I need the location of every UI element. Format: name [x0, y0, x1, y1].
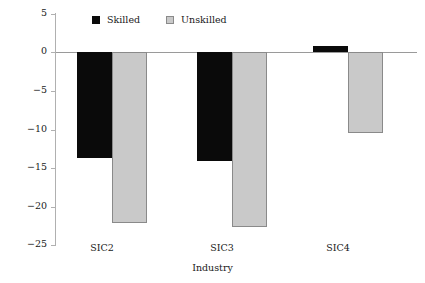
bar-sic2-skilled — [77, 52, 112, 158]
legend-item-unskilled: Unskilled — [166, 14, 227, 25]
bar-chart: Percentage 5 0 −5 −10 −15 −20 −25 SI — [0, 0, 425, 283]
gray-square-swatch-icon — [166, 16, 174, 24]
y-tick-label-0: 0 — [41, 45, 47, 56]
legend-label-skilled: Skilled — [107, 14, 140, 25]
black-square-swatch-icon — [92, 16, 100, 24]
y-tick-label-minus25: −25 — [27, 238, 47, 249]
legend-item-skilled: Skilled — [92, 14, 140, 25]
bar-sic2-unskilled — [112, 52, 147, 224]
x-category-label-sic3: SIC3 — [177, 242, 267, 253]
legend-label-unskilled: Unskilled — [181, 14, 227, 25]
y-tick-label-minus20: −20 — [27, 200, 47, 211]
y-tick-label-minus15: −15 — [27, 161, 47, 172]
y-tick-minus20: −20 — [51, 207, 56, 208]
y-tick-minus15: −15 — [51, 168, 56, 169]
bar-sic3-unskilled — [232, 52, 267, 227]
x-category-label-sic4: SIC4 — [293, 242, 383, 253]
y-tick-5: 5 — [51, 14, 56, 15]
y-tick-minus10: −10 — [51, 130, 56, 131]
x-axis-title: Industry — [0, 262, 425, 273]
bar-sic3-skilled — [197, 52, 232, 161]
plot-area: 5 0 −5 −10 −15 −20 −25 — [55, 13, 417, 246]
y-tick-label-5: 5 — [41, 7, 47, 18]
legend: Skilled Unskilled — [92, 14, 227, 25]
x-category-label-sic2: SIC2 — [57, 242, 147, 253]
y-tick-0: 0 — [51, 52, 56, 53]
y-tick-label-minus10: −10 — [27, 123, 47, 134]
y-tick-minus25: −25 — [51, 245, 56, 246]
bar-sic4-skilled — [313, 46, 348, 51]
bar-sic4-unskilled — [348, 52, 383, 134]
y-tick-label-minus5: −5 — [33, 84, 47, 95]
y-tick-minus5: −5 — [51, 91, 56, 92]
